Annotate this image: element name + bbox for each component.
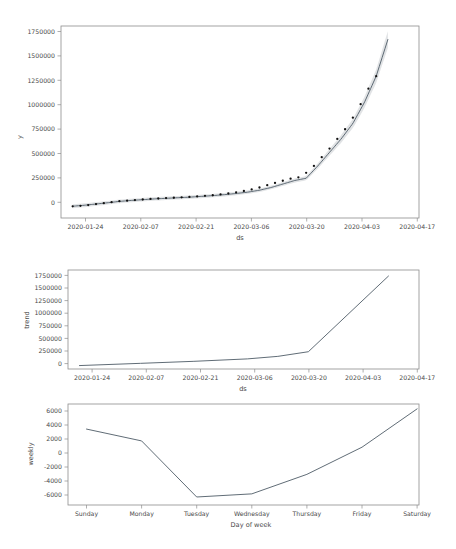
forecast-ytick-750000: 750000 [31, 125, 55, 132]
forecast-xtick-2: 2020-02-21 [178, 223, 214, 230]
observed-point [313, 165, 315, 167]
weekly-chart-panel: 6000 4000 2000 0 -2000 -4000 -6000 weekl… [0, 398, 456, 546]
observed-point [165, 197, 167, 199]
forecast-xtick-6: 2020-04-17 [399, 223, 435, 230]
forecast-ytick-0: 0 [51, 199, 55, 206]
forecast-ytick-500000: 500000 [31, 150, 55, 157]
observed-point [79, 205, 81, 207]
weekly-xtick-saturday: Saturday [403, 510, 431, 518]
observed-point [336, 138, 338, 140]
trend-xtick-3: 2020-03-06 [237, 374, 273, 381]
observed-point [328, 147, 330, 149]
forecast-y-ticks: 1750000 1500000 1250000 1000000 750000 5… [27, 28, 61, 206]
observed-point [173, 197, 175, 199]
trend-ytick-250000: 250000 [38, 347, 62, 354]
observed-point [367, 88, 369, 90]
observed-point [72, 205, 74, 207]
weekly-ytick-minus2000: -2000 [44, 463, 62, 470]
observed-point [266, 184, 268, 186]
observed-point [134, 199, 136, 201]
observed-point [227, 192, 229, 194]
prophet-forecast-figure: 1750000 1500000 1250000 1000000 750000 5… [0, 0, 456, 549]
observed-point [142, 198, 144, 200]
trend-xtick-5: 2020-04-03 [345, 374, 381, 381]
observed-point [126, 199, 128, 201]
observed-point [321, 156, 323, 158]
trend-xtick-4: 2020-03-20 [291, 374, 327, 381]
observed-point [204, 195, 206, 197]
forecast-ytick-1500000: 1500000 [27, 52, 55, 59]
observed-point [87, 204, 89, 206]
forecast-xtick-0: 2020-01-24 [68, 223, 104, 230]
weekly-y-axis-label: weekly [27, 442, 35, 465]
weekly-plot-frame [68, 404, 419, 505]
observed-point [219, 193, 221, 195]
trend-plot-frame [68, 270, 419, 369]
observed-point [344, 128, 346, 130]
observed-point [297, 176, 299, 178]
forecast-uncertainty-band [73, 31, 388, 208]
trend-y-ticks: 1750000 1500000 1250000 1000000 750000 5… [34, 272, 68, 367]
forecast-yhat-line [73, 40, 388, 207]
trend-xtick-6: 2020-04-17 [399, 374, 435, 381]
observed-point [305, 172, 307, 174]
trend-chart-svg: 1750000 1500000 1250000 1000000 750000 5… [0, 264, 456, 396]
weekly-xtick-friday: Friday [353, 510, 372, 518]
weekly-ytick-minus6000: -6000 [44, 491, 62, 498]
observed-point [103, 202, 105, 204]
forecast-plot-frame [61, 26, 419, 218]
weekly-ytick-6000: 6000 [46, 407, 62, 414]
trend-x-axis-label: ds [239, 385, 247, 393]
observed-point [110, 201, 112, 203]
trend-ytick-1750000: 1750000 [34, 272, 62, 279]
observed-point [289, 177, 291, 179]
observed-point [118, 200, 120, 202]
forecast-xtick-4: 2020-03-20 [289, 223, 325, 230]
observed-point [212, 194, 214, 196]
observed-point [282, 180, 284, 182]
weekly-ytick-2000: 2000 [46, 435, 62, 442]
trend-x-ticks: 2020-01-24 2020-02-07 2020-02-21 2020-03… [74, 369, 435, 381]
forecast-ytick-250000: 250000 [31, 174, 55, 181]
forecast-xtick-3: 2020-03-06 [233, 223, 269, 230]
observed-point [149, 198, 151, 200]
trend-ytick-500000: 500000 [38, 335, 62, 342]
observed-point [352, 117, 354, 119]
trend-xtick-1: 2020-02-07 [128, 374, 164, 381]
forecast-observed-points [72, 75, 378, 207]
observed-point [235, 191, 237, 193]
trend-xtick-2: 2020-02-21 [183, 374, 219, 381]
trend-chart-panel: 1750000 1500000 1250000 1000000 750000 5… [0, 264, 456, 396]
forecast-ytick-1000000: 1000000 [27, 101, 55, 108]
observed-point [188, 196, 190, 198]
weekly-y-ticks: 6000 4000 2000 0 -2000 -4000 -6000 [44, 407, 68, 498]
trend-ytick-0: 0 [58, 360, 62, 367]
weekly-ytick-4000: 4000 [46, 421, 62, 428]
observed-point [359, 103, 361, 105]
observed-point [274, 182, 276, 184]
observed-point [258, 186, 260, 188]
forecast-xtick-5: 2020-04-03 [344, 223, 380, 230]
trend-ytick-750000: 750000 [38, 322, 62, 329]
forecast-xtick-1: 2020-02-07 [123, 223, 159, 230]
forecast-chart-panel: 1750000 1500000 1250000 1000000 750000 5… [0, 6, 456, 262]
observed-point [251, 188, 253, 190]
weekly-xtick-thursday: Thursday [292, 510, 322, 518]
weekly-ytick-0: 0 [58, 449, 62, 456]
weekly-x-axis-label: Day of week [231, 521, 272, 529]
observed-point [243, 190, 245, 192]
weekly-chart-svg: 6000 4000 2000 0 -2000 -4000 -6000 weekl… [0, 398, 456, 546]
weekly-xtick-monday: Monday [129, 510, 154, 518]
weekly-ytick-minus4000: -4000 [44, 477, 62, 484]
forecast-chart-svg: 1750000 1500000 1250000 1000000 750000 5… [0, 6, 456, 262]
weekly-xtick-sunday: Sunday [75, 510, 98, 518]
forecast-x-axis-label: ds [236, 234, 244, 242]
weekly-xtick-wednesday: Wednesday [234, 510, 270, 518]
observed-point [196, 195, 198, 197]
forecast-y-axis-label: y [16, 135, 24, 139]
observed-point [95, 203, 97, 205]
forecast-x-ticks: 2020-01-24 2020-02-07 2020-02-21 2020-03… [68, 218, 436, 230]
trend-ytick-1250000: 1250000 [34, 297, 62, 304]
observed-point [180, 196, 182, 198]
trend-series-line [79, 276, 388, 366]
